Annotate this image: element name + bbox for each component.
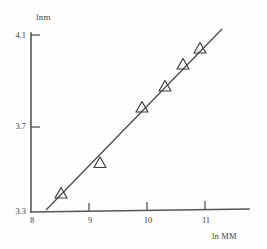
plot-canvas	[0, 0, 267, 249]
scatter-plot-figure: lnm ln MM 4.1 3.7 3.3 8 9 10 11	[0, 0, 267, 249]
fit-line	[46, 29, 222, 210]
data-point-marker	[55, 188, 67, 199]
data-point-marker	[177, 59, 189, 70]
axis-lines	[31, 33, 249, 212]
data-point-marker	[159, 81, 171, 92]
regression-line	[46, 29, 222, 210]
data-point-markers	[55, 43, 206, 199]
x-axis-line	[31, 209, 249, 212]
tick-marks	[31, 35, 205, 212]
